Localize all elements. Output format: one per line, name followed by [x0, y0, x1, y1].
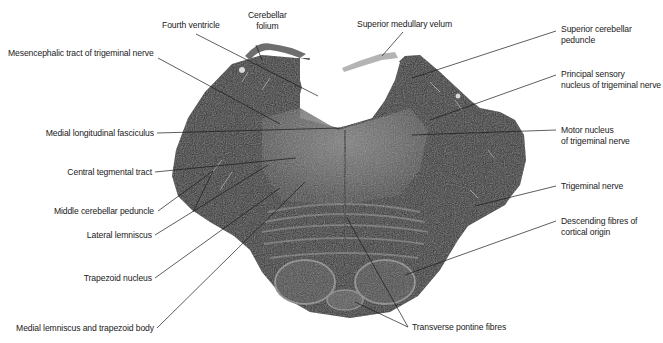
label-line: peduncle — [561, 35, 632, 46]
label-line: folium — [248, 21, 287, 32]
label-line: Descending fibres of — [561, 216, 637, 227]
label-line: Cerebellar — [248, 10, 287, 21]
label-line: cortical origin — [561, 227, 637, 238]
label-line: of trigeminal nerve — [561, 136, 630, 147]
basilar-lobe-right — [355, 260, 415, 304]
label-superior-cerebellar-peduncle: Superior cerebellar peduncle — [561, 24, 632, 45]
label-trigeminal-nerve: Trigeminal nerve — [561, 181, 623, 192]
label-middle-cerebellar-peduncle: Middle cerebellar peduncle — [54, 206, 154, 217]
label-descending-fibres: Descending fibres of cortical origin — [561, 216, 637, 237]
label-line: Superior cerebellar — [561, 24, 632, 35]
label-central-tegmental-tract: Central tegmental tract — [67, 167, 152, 178]
pons-section-figure: Cerebellar folium Fourth ventricle Mesen… — [0, 0, 663, 343]
label-line: Principal sensory — [561, 69, 661, 80]
label-fourth-ventricle: Fourth ventricle — [162, 20, 220, 31]
label-mesencephalic-tract: Mesencephalic tract of trigeminal nerve — [8, 48, 154, 59]
label-medial-lemniscus-trapezoid-body: Medial lemniscus and trapezoid body — [16, 323, 154, 334]
label-transverse-pontine-fibres: Transverse pontine fibres — [412, 322, 506, 333]
basilar-lobe-left — [275, 260, 335, 304]
label-line: Motor nucleus — [561, 125, 630, 136]
label-superior-medullary-velum: Superior medullary velum — [357, 19, 452, 30]
label-line: nucleus of trigeminal nerve — [561, 80, 661, 91]
label-lateral-lemniscus: Lateral lemniscus — [87, 230, 152, 241]
label-principal-sensory-nucleus: Principal sensory nucleus of trigeminal … — [561, 69, 661, 90]
label-medial-longitudinal-fasciculus: Medial longitudinal fasciculus — [46, 128, 154, 139]
label-motor-nucleus: Motor nucleus of trigeminal nerve — [561, 125, 630, 146]
label-trapezoid-nucleus: Trapezoid nucleus — [84, 273, 152, 284]
label-cerebellar-folium: Cerebellar folium — [248, 10, 287, 31]
